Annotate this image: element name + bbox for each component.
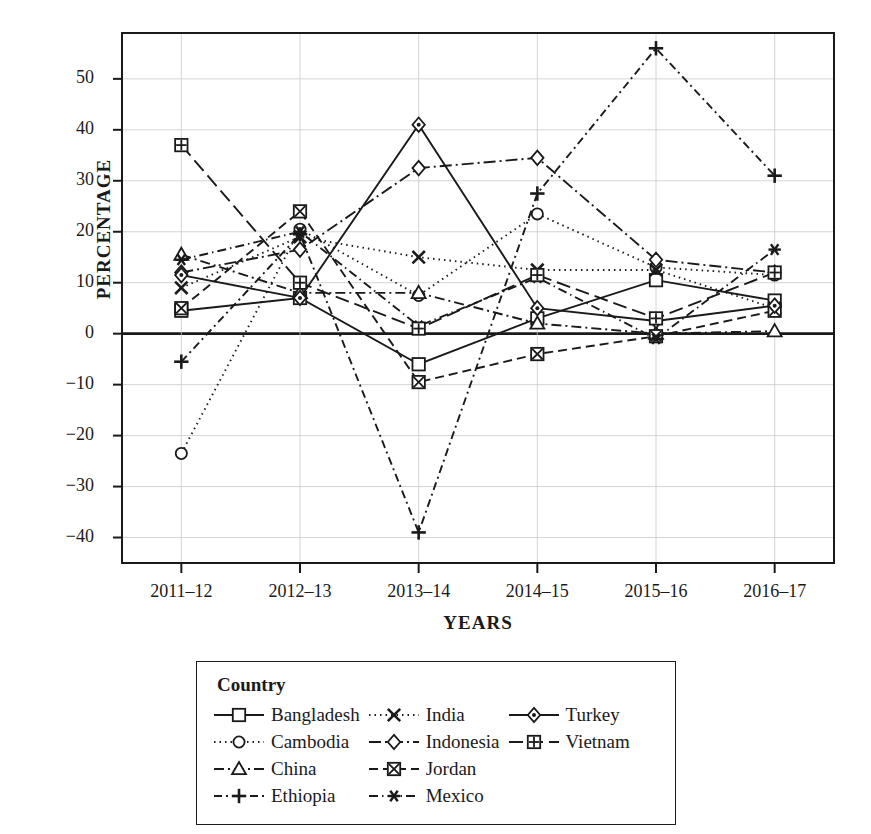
legend-title: Country (217, 674, 661, 696)
legend-item-indonesia[interactable]: Indonesia (366, 729, 500, 755)
legend-label: Bangladesh (267, 705, 360, 725)
legend-columns: BangladeshCambodiaChinaEthiopiaIndiaIndo… (211, 702, 661, 809)
chart-figure: PERCENTAGE YEARS −40−30−20−1001020304050… (0, 0, 871, 834)
series-jordan (175, 205, 781, 388)
plot-area (0, 0, 871, 640)
x-tick-label: 2014–15 (477, 581, 597, 602)
series-vietnam (175, 139, 781, 335)
legend-column-3: TurkeyVietnam (506, 702, 630, 809)
legend-item-jordan[interactable]: Jordan (366, 756, 500, 782)
x-tick-label: 2011–12 (121, 581, 241, 602)
legend-column-1: BangladeshCambodiaChinaEthiopia (211, 702, 360, 809)
legend-marker-cross-icon (366, 705, 422, 725)
legend-label: Mexico (422, 786, 484, 806)
legend-label: Vietnam (562, 732, 630, 752)
series-bangladesh (175, 274, 781, 370)
legend-item-vietnam[interactable]: Vietnam (506, 729, 630, 755)
legend-marker-diamond-icon (366, 732, 422, 752)
x-tick-label: 2016–17 (715, 581, 835, 602)
legend-item-china[interactable]: China (211, 756, 360, 782)
legend-marker-boxplus-icon (506, 732, 562, 752)
series-turkey (175, 118, 781, 329)
legend-label: Indonesia (422, 732, 500, 752)
legend-marker-plus-icon (211, 786, 267, 806)
legend-column-2: IndiaIndonesiaJordanMexico (366, 702, 500, 809)
legend-item-turkey[interactable]: Turkey (506, 702, 630, 728)
legend-label: Cambodia (267, 732, 349, 752)
legend-label: China (267, 759, 316, 779)
legend-marker-square-icon (211, 705, 267, 725)
x-tick-label: 2012–13 (240, 581, 360, 602)
legend-label: Jordan (422, 759, 477, 779)
legend-item-mexico[interactable]: Mexico (366, 783, 500, 809)
legend-item-cambodia[interactable]: Cambodia (211, 729, 360, 755)
x-tick-label: 2015–16 (596, 581, 716, 602)
x-tick-label: 2013–14 (359, 581, 479, 602)
legend-label: Turkey (562, 705, 620, 725)
legend-marker-boxx-icon (366, 759, 422, 779)
legend-item-ethiopia[interactable]: Ethiopia (211, 783, 360, 809)
legend-label: Ethiopia (267, 786, 335, 806)
chart-legend: Country BangladeshCambodiaChinaEthiopiaI… (196, 661, 676, 825)
legend-item-india[interactable]: India (366, 702, 500, 728)
legend-marker-circle-icon (211, 732, 267, 752)
legend-marker-star-icon (366, 786, 422, 806)
plot-frame (122, 33, 834, 563)
legend-item-bangladesh[interactable]: Bangladesh (211, 702, 360, 728)
legend-marker-triangle-icon (211, 759, 267, 779)
legend-marker-diamond2-icon (506, 705, 562, 725)
legend-label: India (422, 705, 465, 725)
series-china (174, 248, 781, 339)
